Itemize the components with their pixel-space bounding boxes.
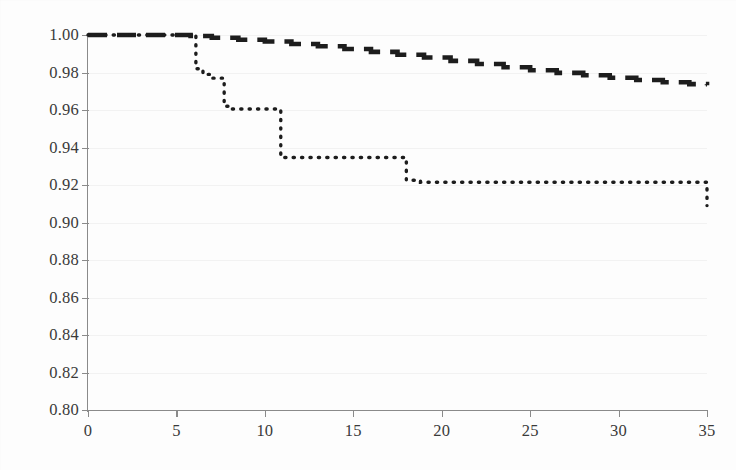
chart-canvas: 1.000.980.960.940.920.900.880.860.840.82…	[0, 0, 736, 470]
series-dashed-curve	[88, 35, 707, 85]
x-tick-label: 20	[433, 421, 450, 441]
y-tick-label: 0.96	[49, 100, 79, 120]
x-tick-label: 5	[172, 421, 180, 441]
y-tick-label: 0.94	[49, 138, 79, 158]
x-tick-mark	[88, 410, 89, 417]
x-tick-label: 30	[610, 421, 627, 441]
x-tick-mark	[619, 410, 620, 417]
x-tick-mark	[530, 410, 531, 417]
x-tick-mark	[442, 410, 443, 417]
y-tick-label: 0.98	[49, 63, 79, 83]
x-tick-mark	[353, 410, 354, 417]
x-tick-label: 10	[256, 421, 273, 441]
x-tick-label: 15	[345, 421, 362, 441]
y-tick-label: 0.84	[49, 325, 79, 345]
y-tick-label: 0.86	[49, 288, 79, 308]
x-tick-label: 35	[699, 421, 716, 441]
y-tick-label: 1.00	[49, 25, 79, 45]
x-tick-mark	[265, 410, 266, 417]
x-tick-label: 25	[522, 421, 539, 441]
x-tick-label: 0	[84, 421, 92, 441]
x-tick-mark	[707, 410, 708, 417]
y-tick-label: 0.92	[49, 175, 79, 195]
x-axis-line	[87, 410, 707, 411]
y-tick-label: 0.82	[49, 363, 79, 383]
y-tick-label: 0.90	[49, 213, 79, 233]
x-tick-mark	[176, 410, 177, 417]
series-dotted-curve	[88, 35, 707, 206]
y-tick-label: 0.80	[49, 400, 79, 420]
series-layer	[88, 35, 707, 410]
plot-area: 1.000.980.960.940.920.900.880.860.840.82…	[88, 35, 707, 410]
y-tick-label: 0.88	[49, 250, 79, 270]
